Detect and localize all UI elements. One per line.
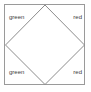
corner-label-top-right: red	[73, 14, 82, 21]
corner-label-bottom-right: red	[73, 69, 82, 76]
corner-label-top-left: green	[9, 14, 24, 21]
diagram-canvas: green red green red	[0, 0, 91, 92]
corner-label-bottom-left: green	[9, 69, 24, 76]
